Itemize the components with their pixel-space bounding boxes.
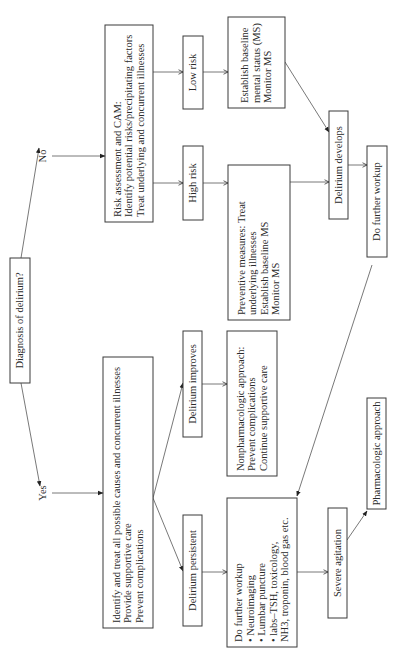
node-preventive: Preventive measures: Treatunderlying ill… (228, 165, 290, 320)
node-text-line: Monitor MS (270, 263, 281, 315)
node-severe-agitation: Severe agitation (328, 508, 347, 618)
node-text-line: Treat underlying and concurrent illnesse… (135, 44, 146, 217)
nodes-layer: Diagnosis of delirium?Risk assessment an… (10, 17, 387, 647)
node-high-risk: High risk (183, 146, 203, 220)
node-text-line: Prevent complications (134, 529, 145, 623)
node-text-line: Do further workup (233, 563, 244, 642)
node-text-line: Do further workup (371, 162, 382, 241)
node-risk-assessment: Risk assessment and CAM:Identify potenti… (105, 25, 153, 222)
edge-diagnosis-to-risk-assessment (21, 148, 39, 258)
node-text-line: Pharmacologic approach (371, 401, 382, 506)
edge-further-workup-top-to-further-workup-list (297, 265, 372, 496)
node-text-line: High risk (187, 163, 198, 203)
edge-diagnosis-to-identify-treat (21, 383, 40, 486)
node-text-line: NH3, troponin, blood gas etc. (279, 517, 290, 642)
node-pharmacologic: Pharmacologic approach (367, 398, 386, 509)
node-text-line: Delirium improves (187, 344, 198, 424)
node-identify-treat: Identify and treat all possible causes a… (103, 357, 153, 628)
node-text-line: Nonpharmacologic approach: (235, 346, 246, 471)
edge-label-no: No (37, 150, 48, 163)
node-text-line: Risk assessment and CAM: (112, 101, 123, 217)
edge-labels-layer: NoYes (37, 150, 105, 501)
node-text-line: Delirium persistent (187, 530, 198, 611)
node-text-line: Low risk (187, 53, 198, 91)
node-delirium-improves: Delirium improves (183, 331, 202, 437)
node-further-workup-list: Do further workup• Neuroimaging• Lumbar … (227, 498, 297, 647)
node-text-line: Delirium develops (333, 126, 344, 204)
node-establish-baseline: Establish baselinemental status (MS)Moni… (228, 17, 285, 108)
node-text-line: Establish baseline (239, 27, 250, 103)
node-text-line: Identify and treat all possible causes a… (111, 367, 122, 623)
edge-label-yes: Yes (37, 485, 48, 500)
node-further-workup-top: Do further workup (367, 146, 387, 257)
node-text-line: Monitor MS (262, 51, 273, 103)
node-text-line: • labs–TSH, toxicology, (268, 542, 279, 642)
node-text-line: Continue supportive care (258, 365, 269, 471)
node-text-line: Prevent complications (246, 377, 257, 471)
edge-identify-treat-to-delirium-persistent (153, 498, 183, 571)
edge-establish-baseline-to-delirium-develops (285, 62, 329, 132)
node-text-line: • Neuroimaging (245, 574, 256, 642)
node-text-line: Preventive measures: Treat (236, 201, 247, 315)
node-text-line: • Lumbar puncture (256, 563, 267, 642)
node-text-line: underlying illnesses (247, 231, 258, 315)
node-delirium-persistent: Delirium persistent (183, 515, 202, 626)
node-text-line: Diagnosis of delirium? (14, 272, 25, 369)
node-text-line: Establish baseline MS (259, 222, 270, 315)
node-text-line: Severe agitation (332, 528, 343, 597)
node-text-line: Provide supportive care (122, 523, 133, 623)
node-low-risk: Low risk (183, 36, 203, 109)
delirium-flowchart: Diagnosis of delirium?Risk assessment an… (0, 0, 403, 650)
edge-identify-treat-to-delirium-improves (153, 383, 183, 498)
edge-severe-agitation-to-pharmacologic (347, 511, 367, 540)
node-text-line: Identify potential risks/precipitating f… (123, 35, 134, 217)
node-diagnosis: Diagnosis of delirium? (10, 258, 30, 383)
edges-layer (21, 62, 372, 572)
node-text-line: mental status (MS) (251, 23, 263, 103)
node-delirium-develops: Delirium develops (329, 111, 348, 219)
node-nonpharm: Nonpharmacologic approach:Prevent compli… (227, 331, 277, 476)
